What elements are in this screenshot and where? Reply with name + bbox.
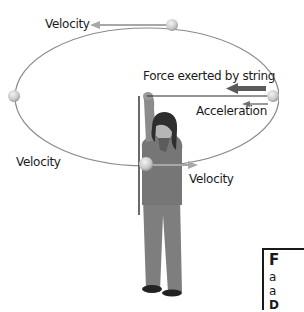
caption-line-1: F	[269, 253, 279, 268]
velocity-label-left: Velocity	[16, 156, 61, 168]
figure-caption-box: F a a D	[262, 248, 304, 310]
acceleration-label: Acceleration	[196, 105, 267, 117]
person-figure	[142, 92, 183, 297]
caption-line-2: a	[269, 271, 276, 283]
velocity-label-top: Velocity	[45, 18, 90, 30]
velocity-label-bottom: Velocity	[189, 173, 234, 185]
ball-right	[267, 90, 279, 102]
ball-top	[166, 19, 178, 31]
caption-line-3: a	[269, 285, 276, 297]
ball-left	[8, 90, 20, 102]
force-label: Force exerted by string	[143, 70, 275, 82]
ball-bottom	[139, 157, 153, 171]
force-arrow	[226, 83, 266, 94]
caption-line-4: D	[269, 299, 279, 311]
